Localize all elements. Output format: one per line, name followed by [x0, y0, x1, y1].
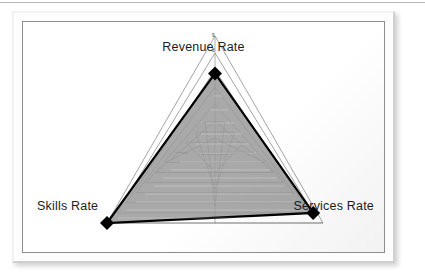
axis-label-services-rate: Services Rate — [294, 199, 374, 213]
axis-label-revenue-rate: Revenue Rate — [162, 40, 244, 54]
screenshot-root: 9 8 Revenue Rate Skills Rate Services Ra… — [0, 0, 425, 278]
chart-frame: 9 8 Revenue Rate Skills Rate Services Ra… — [12, 11, 395, 263]
radar-chart: 9 8 Revenue Rate Skills Rate Services Ra… — [23, 22, 384, 252]
top-hairline-divider — [0, 2, 425, 3]
radar-series-area — [107, 73, 313, 223]
radar-chart-svg — [23, 22, 384, 252]
marker-revenue-rate — [208, 66, 222, 80]
axis-label-skills-rate: Skills Rate — [37, 199, 98, 213]
radial-tick-outer: 9 — [212, 34, 215, 39]
chart-plot-area: 9 8 Revenue Rate Skills Rate Services Ra… — [22, 21, 385, 253]
